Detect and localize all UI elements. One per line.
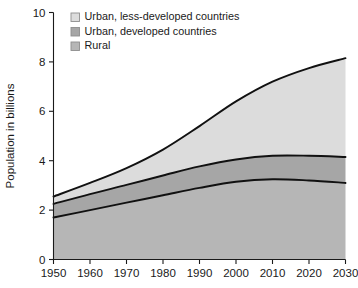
y-tick-label: 8 — [39, 56, 45, 68]
y-axis-ticks — [49, 13, 54, 260]
legend-swatch — [71, 28, 80, 37]
legend-label: Urban, less-developed countries — [85, 10, 240, 22]
population-area-chart: 0246810 19501960197019801990200020102020… — [0, 0, 358, 288]
y-tick-label: 2 — [39, 204, 45, 216]
y-tick-label: 6 — [39, 105, 45, 117]
legend-swatch — [71, 13, 80, 22]
x-tick-label: 1990 — [187, 267, 213, 279]
x-tick-label: 1960 — [77, 267, 103, 279]
y-axis-title: Population in billions — [4, 83, 16, 188]
x-tick-label: 1980 — [150, 267, 176, 279]
x-tick-label: 2030 — [333, 267, 358, 279]
chart-legend: Urban, less-developed countriesUrban, de… — [71, 10, 240, 51]
x-tick-label: 2010 — [260, 267, 286, 279]
x-axis-ticks — [54, 260, 346, 265]
x-tick-label: 2020 — [296, 267, 322, 279]
y-tick-label: 10 — [33, 7, 46, 19]
chart-canvas: 0246810 19501960197019801990200020102020… — [0, 0, 358, 288]
y-tick-label: 0 — [39, 254, 45, 266]
x-tick-label: 1950 — [41, 267, 67, 279]
legend-label: Urban, developed countries — [85, 25, 218, 37]
legend-label: Rural — [85, 39, 111, 51]
y-tick-label: 4 — [39, 155, 46, 167]
x-tick-label: 2000 — [223, 267, 249, 279]
y-axis-tick-labels: 0246810 — [33, 7, 46, 266]
plot-bands — [54, 58, 346, 259]
x-axis-tick-labels: 195019601970198019902000201020202030 — [41, 267, 358, 279]
legend-swatch — [71, 42, 80, 51]
x-tick-label: 1970 — [114, 267, 140, 279]
